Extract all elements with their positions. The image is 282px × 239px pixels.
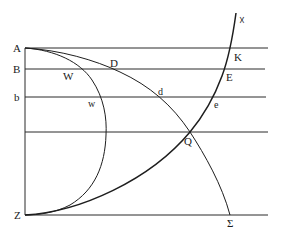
label-W: W (63, 70, 74, 82)
label-D: D (110, 57, 118, 69)
label-Z: Z (14, 209, 21, 221)
label-Sigma: Σ (227, 217, 233, 229)
label-Q: Q (184, 135, 192, 147)
geometric-diagram: A B b Z W w D d Q Σ K E e ☓ (0, 0, 282, 239)
label-X: ☓ (239, 14, 245, 26)
label-A: A (13, 42, 21, 54)
label-w: w (88, 98, 96, 109)
label-E: E (226, 71, 233, 83)
label-b: b (14, 91, 20, 103)
label-e: e (214, 99, 219, 110)
label-K: K (234, 51, 242, 63)
label-B: B (13, 63, 20, 75)
curve-ZQeEK (25, 13, 236, 215)
label-d: d (158, 86, 163, 97)
